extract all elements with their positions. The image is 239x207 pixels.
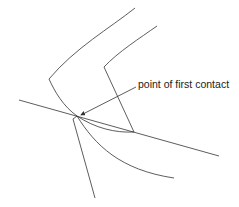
lower-wedge-curved-edge [77, 116, 174, 178]
lower-wedge-straight-edge [73, 116, 95, 198]
contact-diagram: point of first contact [0, 0, 239, 207]
annotation-label: point of first contact [138, 78, 229, 90]
annotation-arrow [81, 87, 136, 115]
tangent-line [19, 100, 219, 156]
upper-wedge-outer-curve [49, 8, 135, 116]
